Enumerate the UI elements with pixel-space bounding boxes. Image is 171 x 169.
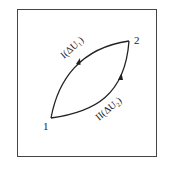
point-2-label: 2 [134,34,140,46]
diagram-frame [18,10,157,157]
point-1-label: 1 [43,120,49,132]
thermo-path-diagram: 1 2 I(ΔU₁) II(ΔU₂) [0,0,171,169]
